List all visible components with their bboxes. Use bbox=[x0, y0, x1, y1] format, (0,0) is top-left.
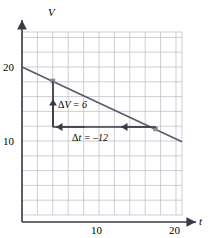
grid-lines bbox=[22, 32, 182, 215]
x-axis-label: t bbox=[199, 215, 202, 227]
x-tick-label-20: 20 bbox=[169, 224, 180, 236]
graph-figure: V t 20 10 10 20 ΔV = 6 Δt = –12 bbox=[0, 0, 212, 238]
y-tick-label-10: 10 bbox=[3, 135, 14, 147]
y-tick-label-20: 20 bbox=[3, 61, 14, 73]
data-line bbox=[22, 67, 182, 142]
delta-t-label: Δt = –12 bbox=[72, 132, 108, 143]
delta-v-label: ΔV = 6 bbox=[58, 99, 87, 110]
x-tick-label-10: 10 bbox=[91, 224, 102, 236]
delta-t-text: t = –12 bbox=[78, 132, 108, 143]
delta-v-text: V = 6 bbox=[64, 99, 87, 110]
plot-canvas bbox=[0, 0, 212, 238]
y-axis-label: V bbox=[48, 6, 55, 18]
